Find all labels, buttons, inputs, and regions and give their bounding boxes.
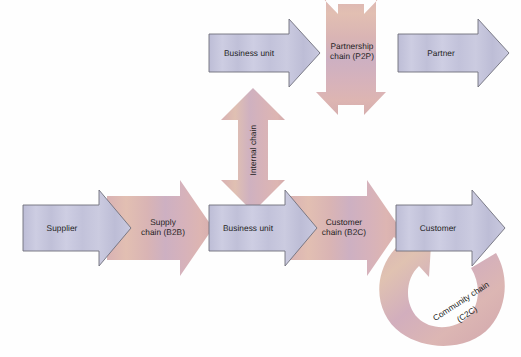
diagram-canvas xyxy=(0,0,521,357)
internal-chain-arrow xyxy=(221,88,285,212)
partnership-chain-arrow xyxy=(316,0,386,115)
business-unit-top-arrow xyxy=(209,19,320,87)
value-chain-diagram: Business unit Partnership chain (P2P) Pa… xyxy=(0,0,521,357)
partner-arrow xyxy=(398,19,509,87)
